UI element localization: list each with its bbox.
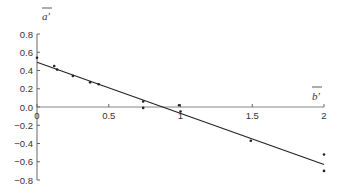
- y-tick-label: 0.2: [20, 83, 33, 94]
- x-tick-label: 1.5: [246, 110, 259, 121]
- data-point: [323, 170, 326, 173]
- data-point: [89, 81, 92, 84]
- y-tick-label: 0.4: [20, 65, 33, 76]
- y-tick-label: −0.4: [14, 138, 33, 149]
- y-tick-label: 0.6: [20, 47, 33, 58]
- data-point: [72, 75, 75, 78]
- y-tick-label: −0.6: [14, 156, 33, 167]
- data-point: [142, 100, 145, 103]
- data-point: [179, 110, 182, 113]
- x-axis-title: b′: [312, 90, 321, 102]
- scatter-chart: 0.80.60.40.20.0−0.2−0.4−0.6−0.8 00.511.5…: [0, 0, 340, 195]
- data-point: [323, 153, 326, 156]
- data-point: [97, 83, 100, 86]
- data-point: [56, 68, 59, 71]
- data-point: [178, 104, 181, 107]
- y-axis-title: a′: [42, 10, 51, 22]
- y-tick-label: −0.8: [14, 175, 33, 186]
- y-tick-label: 0.0: [20, 102, 33, 113]
- data-point: [53, 65, 56, 68]
- data-point: [142, 107, 145, 110]
- fit-line-segment: [37, 62, 324, 164]
- y-tick-label: −0.2: [14, 120, 33, 131]
- x-tick-label: 2: [321, 110, 326, 121]
- data-point: [250, 139, 253, 142]
- y-tick-label: 0.8: [20, 29, 33, 40]
- x-tick-label: 0.5: [102, 110, 115, 121]
- x-tick-label: 0: [34, 110, 39, 121]
- fit-line: [37, 62, 324, 164]
- y-axis: 0.80.60.40.20.0−0.2−0.4−0.6−0.8: [14, 29, 40, 186]
- data-point: [36, 56, 39, 59]
